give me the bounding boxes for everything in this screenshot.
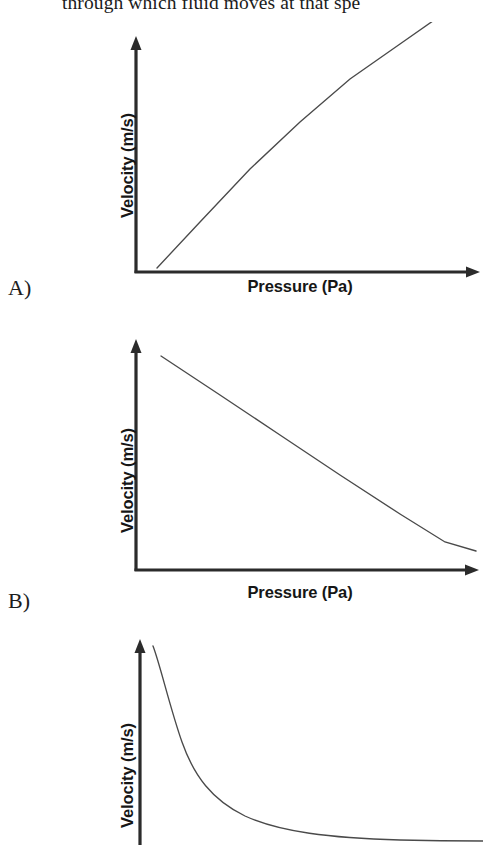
chart-a-svg [0, 22, 483, 292]
chart-a-x-axis-title: Pressure (Pa) [180, 277, 420, 296]
panel-label-a: A) [8, 275, 31, 301]
chart-b-svg [0, 325, 483, 600]
chart-c-figure [0, 630, 483, 845]
chart-b-y-axis-title: Velocity (m/s) [118, 428, 137, 533]
intro-text-fragment: through which fluid moves at that spe [62, 0, 483, 15]
chart-b-figure [0, 325, 483, 600]
chart-c-series-curve [153, 646, 483, 841]
chart-a-y-axis-title: Velocity (m/s) [118, 113, 137, 218]
chart-c-svg [0, 630, 483, 845]
chart-a-series-line [157, 22, 483, 268]
chart-a-figure [0, 22, 483, 292]
chart-b-x-axis [135, 565, 480, 576]
chart-b-series-line [161, 356, 476, 551]
chart-b-x-axis-title: Pressure (Pa) [180, 583, 420, 602]
chart-c-y-axis-title: Velocity (m/s) [118, 723, 137, 828]
chart-a-x-axis [135, 267, 481, 278]
panel-label-b: B) [8, 588, 30, 614]
